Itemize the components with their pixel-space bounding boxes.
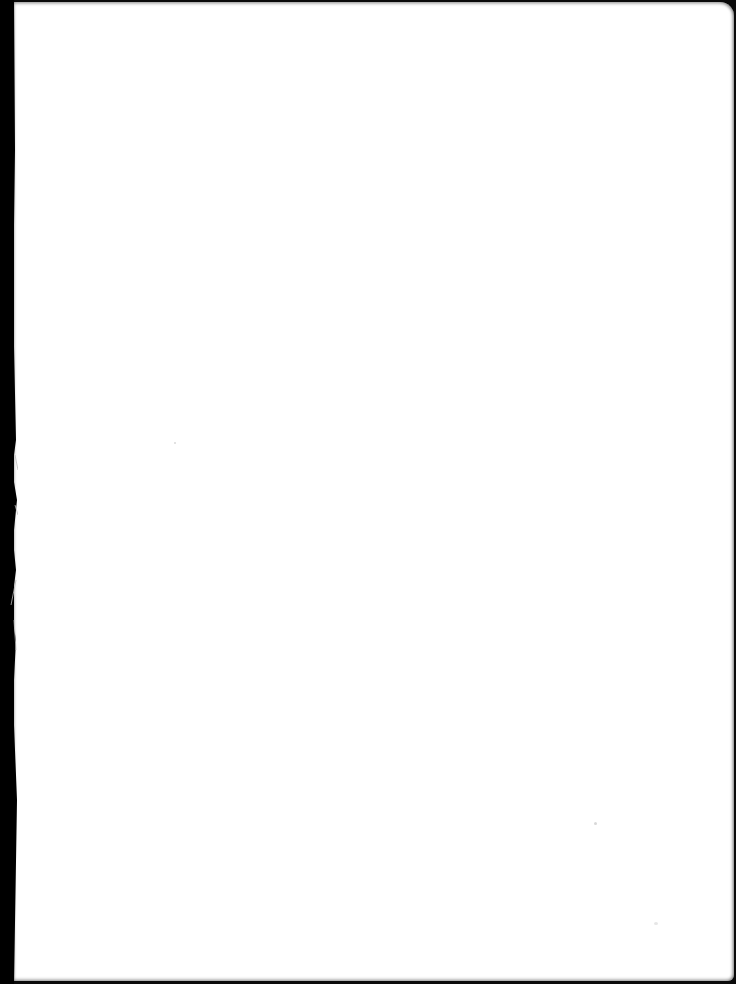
page-content [14, 2, 734, 981]
blank-page [14, 2, 734, 981]
scanned-document [0, 0, 736, 984]
torn-paper-edge [10, 0, 18, 984]
paper-speck [174, 442, 176, 444]
paper-speck [654, 922, 658, 925]
paper-speck [594, 822, 597, 825]
